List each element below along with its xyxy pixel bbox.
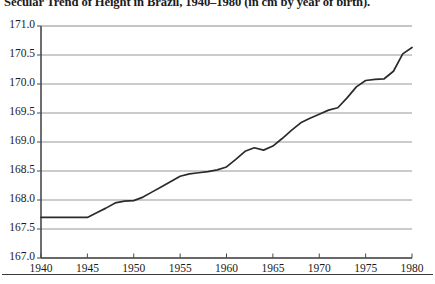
- y-axis-tick-label: 168.5: [1, 163, 35, 175]
- chart-svg: [0, 0, 435, 284]
- y-axis-tick-label: 169.5: [1, 105, 35, 117]
- x-axis-tick-label: 1980: [392, 262, 432, 274]
- x-axis-tick-label: 1960: [207, 262, 247, 274]
- y-axis-tick-label: 169.0: [1, 134, 35, 146]
- x-axis-tick-label: 1970: [299, 262, 339, 274]
- y-axis-tick-label: 171.0: [1, 18, 35, 30]
- x-axis-tick-label: 1955: [160, 262, 200, 274]
- plot-area: 167.0167.5168.0168.5169.0169.5170.0170.5…: [0, 0, 435, 284]
- x-axis-tick-label: 1965: [253, 262, 293, 274]
- y-axis-tick-label: 167.0: [1, 250, 35, 262]
- y-axis-tick-label: 167.5: [1, 221, 35, 233]
- y-axis-tick-label: 170.5: [1, 47, 35, 59]
- y-axis-tick-label: 170.0: [1, 76, 35, 88]
- footer-rule: [2, 274, 433, 275]
- gridlines: [41, 26, 412, 258]
- y-axis-tick-label: 168.0: [1, 192, 35, 204]
- x-axis-tick-label: 1950: [114, 262, 154, 274]
- x-axis-tick-label: 1940: [21, 262, 61, 274]
- height-trend-line: [41, 47, 412, 217]
- x-axis-tick-label: 1945: [67, 262, 107, 274]
- chart-figure: Secular Trend of Height in Brazil, 1940–…: [0, 0, 435, 284]
- x-axis-tick-label: 1975: [346, 262, 386, 274]
